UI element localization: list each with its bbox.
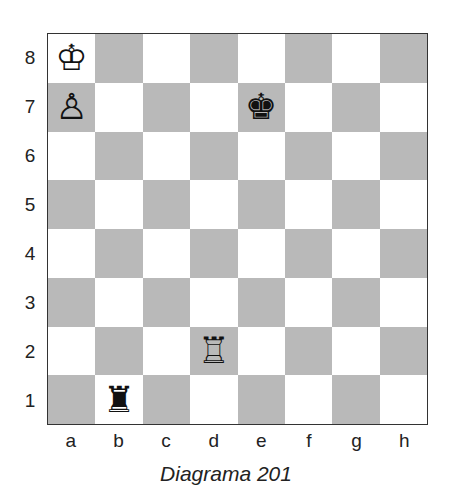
square-h2 bbox=[380, 327, 427, 376]
black-rook-icon: ♜ bbox=[103, 382, 135, 418]
square-f8 bbox=[285, 34, 332, 83]
square-h1 bbox=[380, 375, 427, 424]
file-label: g bbox=[333, 430, 380, 452]
square-b1: ♜ bbox=[95, 375, 142, 424]
file-label: c bbox=[143, 430, 190, 452]
square-a4 bbox=[48, 229, 95, 278]
square-d2: ♖ bbox=[190, 327, 237, 376]
square-e1 bbox=[238, 375, 285, 424]
square-e4 bbox=[238, 229, 285, 278]
white-rook-icon: ♖ bbox=[198, 333, 230, 369]
square-h8 bbox=[380, 34, 427, 83]
square-f2 bbox=[285, 327, 332, 376]
square-h5 bbox=[380, 180, 427, 229]
file-label: e bbox=[238, 430, 285, 452]
square-d1 bbox=[190, 375, 237, 424]
square-c4 bbox=[143, 229, 190, 278]
square-b7 bbox=[95, 83, 142, 132]
square-b4 bbox=[95, 229, 142, 278]
square-a2 bbox=[48, 327, 95, 376]
square-a3 bbox=[48, 278, 95, 327]
square-f1 bbox=[285, 375, 332, 424]
rank-label: 8 bbox=[22, 47, 38, 69]
square-b2 bbox=[95, 327, 142, 376]
square-g3 bbox=[332, 278, 379, 327]
black-king-icon: ♚ bbox=[245, 89, 277, 125]
rank-label: 3 bbox=[22, 292, 38, 314]
square-h6 bbox=[380, 132, 427, 181]
square-f6 bbox=[285, 132, 332, 181]
square-e2 bbox=[238, 327, 285, 376]
square-d3 bbox=[190, 278, 237, 327]
square-d6 bbox=[190, 132, 237, 181]
square-c6 bbox=[143, 132, 190, 181]
rank-label: 1 bbox=[22, 390, 38, 412]
square-e8 bbox=[238, 34, 285, 83]
square-g7 bbox=[332, 83, 379, 132]
square-b8 bbox=[95, 34, 142, 83]
square-d8 bbox=[190, 34, 237, 83]
square-c5 bbox=[143, 180, 190, 229]
square-h4 bbox=[380, 229, 427, 278]
chess-board: ♔♙♚♖♜ bbox=[47, 33, 428, 425]
square-c8 bbox=[143, 34, 190, 83]
rank-label: 6 bbox=[22, 145, 38, 167]
rank-label: 7 bbox=[22, 96, 38, 118]
square-a6 bbox=[48, 132, 95, 181]
square-d4 bbox=[190, 229, 237, 278]
file-label: d bbox=[190, 430, 237, 452]
square-g5 bbox=[332, 180, 379, 229]
square-d5 bbox=[190, 180, 237, 229]
square-f4 bbox=[285, 229, 332, 278]
square-e6 bbox=[238, 132, 285, 181]
rank-label: 4 bbox=[22, 243, 38, 265]
square-a1 bbox=[48, 375, 95, 424]
square-c1 bbox=[143, 375, 190, 424]
square-e7: ♚ bbox=[238, 83, 285, 132]
square-f7 bbox=[285, 83, 332, 132]
rank-label: 5 bbox=[22, 194, 38, 216]
square-g1 bbox=[332, 375, 379, 424]
square-h7 bbox=[380, 83, 427, 132]
square-g4 bbox=[332, 229, 379, 278]
square-c3 bbox=[143, 278, 190, 327]
square-d7 bbox=[190, 83, 237, 132]
square-b3 bbox=[95, 278, 142, 327]
file-label: h bbox=[381, 430, 428, 452]
white-king-icon: ♔ bbox=[56, 40, 88, 76]
square-a8: ♔ bbox=[48, 34, 95, 83]
square-g8 bbox=[332, 34, 379, 83]
square-h3 bbox=[380, 278, 427, 327]
square-c2 bbox=[143, 327, 190, 376]
square-b5 bbox=[95, 180, 142, 229]
square-c7 bbox=[143, 83, 190, 132]
square-e3 bbox=[238, 278, 285, 327]
square-a7: ♙ bbox=[48, 83, 95, 132]
square-b6 bbox=[95, 132, 142, 181]
square-f5 bbox=[285, 180, 332, 229]
square-g6 bbox=[332, 132, 379, 181]
square-f3 bbox=[285, 278, 332, 327]
file-label: b bbox=[95, 430, 142, 452]
square-e5 bbox=[238, 180, 285, 229]
file-label: a bbox=[47, 430, 94, 452]
file-label: f bbox=[285, 430, 332, 452]
square-a5 bbox=[48, 180, 95, 229]
white-pawn-icon: ♙ bbox=[56, 89, 88, 125]
rank-label: 2 bbox=[22, 341, 38, 363]
diagram-caption: Diagrama 201 bbox=[0, 462, 452, 486]
square-g2 bbox=[332, 327, 379, 376]
